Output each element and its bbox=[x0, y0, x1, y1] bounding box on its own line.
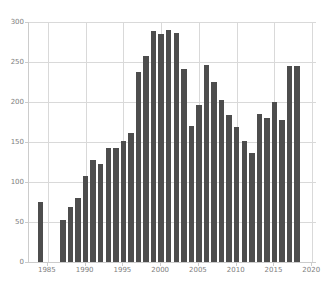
x-axis-tick-label: 2020 bbox=[291, 267, 329, 274]
x-axis-tick-label: 2010 bbox=[216, 267, 256, 274]
bar bbox=[128, 133, 133, 262]
y-axis-tick-label: 50 bbox=[0, 219, 24, 226]
x-axis-tick-mark bbox=[273, 263, 274, 266]
bar-chart-figure: 050100150200250300 198519901995200020052… bbox=[0, 0, 329, 295]
bar bbox=[189, 126, 194, 262]
bar bbox=[143, 56, 148, 262]
bar bbox=[106, 148, 111, 262]
y-axis-tick-mark bbox=[25, 102, 28, 103]
bar bbox=[219, 100, 224, 262]
x-axis-tick-label: 2000 bbox=[140, 267, 180, 274]
y-axis-tick-mark bbox=[25, 142, 28, 143]
x-axis-tick-label: 2015 bbox=[253, 267, 293, 274]
bar bbox=[257, 114, 262, 262]
bar bbox=[294, 66, 299, 262]
bar bbox=[90, 160, 95, 262]
bar bbox=[113, 148, 118, 262]
bar bbox=[83, 176, 88, 262]
bar bbox=[249, 153, 254, 262]
y-axis-tick-label: 300 bbox=[0, 19, 24, 26]
x-axis-tick-label: 1995 bbox=[102, 267, 142, 274]
y-axis-tick-mark bbox=[25, 262, 28, 263]
x-axis-tick-mark bbox=[311, 263, 312, 266]
bar bbox=[68, 207, 73, 262]
x-axis-tick-mark bbox=[85, 263, 86, 266]
bar bbox=[196, 105, 201, 262]
plot-area bbox=[28, 22, 316, 263]
bar bbox=[204, 65, 209, 262]
bar bbox=[136, 72, 141, 262]
bar bbox=[272, 102, 277, 262]
x-axis-tick-mark bbox=[236, 263, 237, 266]
x-axis-tick-label: 1990 bbox=[65, 267, 105, 274]
bar bbox=[151, 31, 156, 262]
x-axis-tick-mark bbox=[47, 263, 48, 266]
bar bbox=[174, 33, 179, 262]
bar bbox=[158, 34, 163, 262]
y-axis-tick-mark bbox=[25, 62, 28, 63]
x-axis-tick-mark bbox=[122, 263, 123, 266]
y-axis: 050100150200250300 bbox=[0, 0, 24, 295]
y-axis-tick-label: 200 bbox=[0, 99, 24, 106]
bar bbox=[234, 127, 239, 262]
bar bbox=[60, 220, 65, 262]
bar bbox=[38, 202, 43, 262]
bar bbox=[98, 164, 103, 262]
bar-series bbox=[29, 22, 316, 262]
x-axis-tick-label: 1985 bbox=[27, 267, 67, 274]
bar bbox=[121, 141, 126, 262]
y-axis-tick-label: 100 bbox=[0, 179, 24, 186]
bar bbox=[181, 69, 186, 262]
y-axis-tick-mark bbox=[25, 22, 28, 23]
y-axis-tick-label: 150 bbox=[0, 139, 24, 146]
bar bbox=[287, 66, 292, 262]
y-axis-tick-label: 0 bbox=[0, 259, 24, 266]
x-axis-tick-mark bbox=[160, 263, 161, 266]
y-axis-tick-mark bbox=[25, 182, 28, 183]
bar bbox=[211, 82, 216, 262]
y-axis-tick-label: 250 bbox=[0, 59, 24, 66]
bar bbox=[226, 115, 231, 262]
bar bbox=[279, 120, 284, 262]
bar bbox=[75, 198, 80, 262]
bar bbox=[166, 30, 171, 262]
bar bbox=[264, 118, 269, 262]
x-axis-tick-mark bbox=[198, 263, 199, 266]
bar bbox=[242, 141, 247, 262]
x-axis-tick-label: 2005 bbox=[178, 267, 218, 274]
y-axis-tick-mark bbox=[25, 222, 28, 223]
